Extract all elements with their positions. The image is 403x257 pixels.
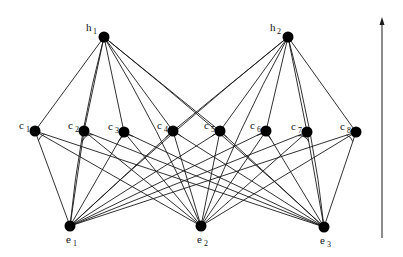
label-c7-subscript: 7 [298, 126, 302, 135]
edge-c4-e1 [70, 131, 173, 226]
label-c1: c [19, 119, 24, 131]
label-e3: e [320, 234, 325, 246]
edge-h2-c8 [288, 37, 356, 132]
label-h1: h [86, 21, 92, 33]
label-e3-subscript: 3 [327, 240, 331, 249]
label-c4: c [157, 119, 162, 131]
edge-c8-e3 [324, 132, 356, 227]
label-c8-subscript: 8 [347, 126, 351, 135]
edge-c3-e1 [70, 132, 124, 226]
upward-arrow [380, 17, 385, 238]
node-c8 [351, 127, 362, 138]
node-c4 [168, 126, 179, 137]
label-e1: e [66, 233, 71, 245]
node-c3 [119, 127, 130, 138]
edge-c8-e1 [70, 132, 356, 226]
edge-c5-e1 [70, 131, 220, 226]
edge-c1-e1 [35, 131, 70, 226]
edge-c3-e3 [124, 132, 324, 227]
label-c6: c [250, 119, 255, 131]
node-c2 [79, 126, 90, 137]
edge-c2-e2 [84, 131, 201, 226]
label-c2-subscript: 2 [75, 125, 79, 134]
node-c1 [30, 126, 41, 137]
label-e2: e [197, 233, 202, 245]
label-c1-subscript: 1 [26, 125, 30, 134]
label-e1-subscript: 1 [73, 239, 77, 248]
node-c7 [302, 127, 313, 138]
node-e2 [196, 221, 207, 232]
label-h2: h [270, 21, 276, 33]
node-h1 [99, 32, 110, 43]
label-h1-subscript: 1 [93, 27, 97, 36]
label-c3: c [108, 120, 113, 132]
edge-c1-e3 [35, 131, 324, 227]
label-c6-subscript: 6 [257, 125, 261, 134]
label-e2-subscript: 2 [204, 239, 208, 248]
node-c5 [215, 126, 226, 137]
label-h2-subscript: 2 [277, 27, 281, 36]
label-c4-subscript: 4 [164, 125, 168, 134]
node-e3 [319, 222, 330, 233]
edge-h2-c6 [266, 37, 288, 131]
hierarchy-diagram: h1h2c1c2c3c4c5c6c7c8e1e2e3 [0, 0, 403, 257]
label-c2: c [68, 119, 73, 131]
node-h2 [283, 32, 294, 43]
arrow-up-icon [380, 17, 385, 25]
edge-c6-e1 [70, 131, 266, 226]
label-c5-subscript: 5 [211, 125, 215, 134]
label-c8: c [340, 120, 345, 132]
nodes-layer [30, 32, 362, 233]
label-c3-subscript: 3 [115, 126, 119, 135]
edge-h2-e1 [70, 37, 288, 226]
label-c7: c [291, 120, 296, 132]
node-c6 [261, 126, 272, 137]
label-c5: c [204, 119, 209, 131]
edge-c1-e2 [35, 131, 201, 226]
node-e1 [65, 221, 76, 232]
edge-h2-c7 [288, 37, 307, 132]
